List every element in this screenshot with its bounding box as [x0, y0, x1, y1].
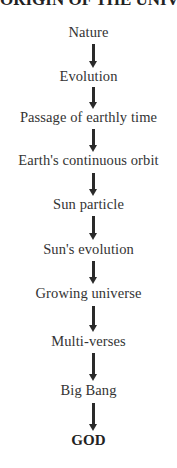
node-passage-of-earthly-time: Passage of earthly time: [0, 108, 177, 126]
down-arrow-icon: [89, 87, 97, 109]
down-arrow-icon: [89, 403, 97, 431]
node-multi-verses: Multi-verses: [0, 332, 177, 350]
node-sun-particle: Sun particle: [0, 195, 177, 213]
down-arrow-icon: [89, 216, 97, 240]
down-arrow-icon: [89, 353, 97, 381]
node-growing-universe: Growing universe: [0, 284, 177, 302]
cropped-heading: ORIGIN OF THE UNIVERSE: [0, 0, 177, 10]
down-arrow-icon: [89, 44, 97, 68]
node-evolution: Evolution: [0, 67, 177, 85]
node-nature: Nature: [0, 23, 177, 41]
down-arrow-icon: [89, 129, 97, 152]
node-god: GOD: [0, 431, 177, 449]
down-arrow-icon: [89, 306, 97, 332]
down-arrow-icon: [89, 261, 97, 284]
node-big-bang: Big Bang: [0, 381, 177, 399]
node-earths-continuous-orbit: Earth's continuous orbit: [0, 151, 177, 169]
node-suns-evolution: Sun's evolution: [0, 240, 177, 258]
down-arrow-icon: [89, 173, 97, 196]
